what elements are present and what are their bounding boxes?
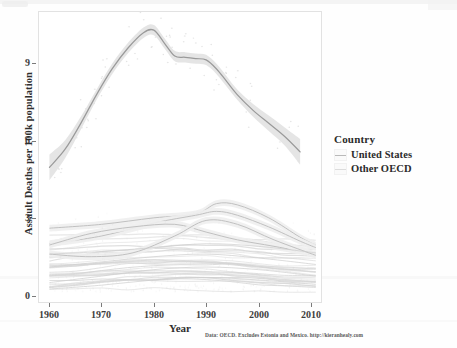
scatter-point — [243, 251, 244, 252]
scatter-point — [183, 41, 184, 42]
scatter-point — [279, 141, 280, 142]
scatter-point — [252, 281, 253, 282]
scatter-point — [311, 282, 312, 283]
scatter-point — [73, 277, 74, 278]
scatter-point — [180, 274, 181, 275]
scatter-point — [211, 271, 212, 272]
scatter-point — [287, 264, 288, 265]
scatter-point — [253, 285, 254, 286]
scatter-point — [161, 283, 162, 284]
scatter-point — [173, 286, 174, 287]
scatter-point — [219, 263, 220, 264]
scatter-point — [140, 270, 141, 271]
scatter-point — [75, 219, 76, 220]
scatter-point — [155, 282, 156, 283]
scatter-point — [232, 270, 233, 271]
scatter-point — [297, 290, 298, 291]
scatter-point — [171, 245, 172, 246]
scatter-point — [308, 254, 309, 255]
y-axis-title: Assault Deaths per 100k population — [23, 44, 34, 264]
scatter-point — [309, 290, 310, 291]
scatter-point — [243, 289, 244, 290]
scatter-point — [184, 251, 185, 252]
scatter-point — [153, 282, 154, 283]
scatter-point — [88, 272, 89, 273]
scatter-point — [151, 46, 152, 47]
scatter-point — [151, 251, 152, 252]
scatter-point — [74, 147, 75, 148]
scatter-point — [226, 66, 227, 67]
scatter-point — [170, 286, 171, 287]
scatter-point — [128, 26, 129, 27]
scatter-point — [250, 285, 251, 286]
scatter-point — [269, 291, 270, 292]
scatter-point — [101, 76, 102, 77]
scatter-point — [310, 232, 311, 233]
scatter-point — [126, 288, 127, 289]
scatter-point — [232, 281, 233, 282]
scatter-point — [303, 251, 304, 252]
scatter-point — [274, 283, 275, 284]
scatter-point — [194, 230, 195, 231]
scatter-point — [56, 283, 57, 284]
scatter-point — [185, 289, 186, 290]
scatter-point — [102, 286, 103, 287]
scatter-point — [101, 95, 102, 96]
scatter-point — [190, 264, 191, 265]
scatter-point — [219, 265, 220, 266]
scatter-point — [94, 89, 95, 90]
scatter-point — [166, 35, 167, 36]
legend-item-united-states[interactable]: United States — [334, 148, 454, 161]
scatter-point — [226, 270, 227, 271]
scatter-point — [158, 276, 159, 277]
oecd-country-line — [49, 288, 315, 293]
scatter-point — [259, 290, 260, 291]
scatter-point — [189, 67, 190, 68]
scatter-point — [142, 230, 143, 231]
scatter-point — [82, 291, 83, 292]
scatter-point — [180, 286, 181, 287]
scatter-point — [139, 284, 140, 285]
scatter-point — [87, 249, 88, 250]
scatter-point — [290, 121, 291, 122]
scatter-point — [225, 258, 226, 259]
scatter-point — [80, 146, 81, 147]
scatter-point — [205, 289, 206, 290]
scatter-point — [278, 264, 279, 265]
scatter-point — [102, 258, 103, 259]
scatter-point — [145, 259, 146, 260]
scatter-point — [64, 284, 65, 285]
x-tick-label-2000: 2000 — [249, 309, 269, 320]
scatter-point — [173, 250, 174, 251]
scatter-point — [159, 290, 160, 291]
scatter-point — [101, 78, 102, 79]
scatter-point — [288, 127, 289, 128]
scatter-point — [218, 222, 219, 223]
x-tick-mark-1980 — [154, 303, 155, 307]
legend-swatch-united-states — [334, 149, 347, 161]
legend-item-other-oecd[interactable]: Other OECD — [334, 162, 454, 175]
scatter-point — [88, 282, 89, 283]
scatter-point — [104, 259, 105, 260]
scatter-point — [246, 239, 247, 240]
scatter-point — [192, 252, 193, 253]
scatter-point — [149, 288, 150, 289]
scatter-point — [196, 285, 197, 286]
scatter-point — [188, 287, 189, 288]
scatter-point — [264, 277, 265, 278]
scatter-point — [57, 227, 58, 228]
scatter-point — [87, 119, 88, 120]
scatter-point — [76, 237, 77, 238]
scatter-point — [193, 37, 194, 38]
scatter-point — [275, 257, 276, 258]
scatter-point — [86, 286, 87, 287]
scatter-point — [251, 86, 252, 87]
scatter-point — [266, 277, 267, 278]
scatter-point — [102, 227, 103, 228]
scatter-point — [143, 290, 144, 291]
scatter-point — [128, 64, 129, 65]
scatter-point — [61, 168, 62, 169]
scatter-point — [67, 291, 68, 292]
scatter-point — [203, 285, 204, 286]
scatter-point — [219, 287, 220, 288]
